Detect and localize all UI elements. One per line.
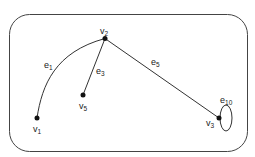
- edge-e5: [105, 39, 219, 119]
- label-v3: v3: [206, 118, 215, 129]
- label-e10: e10: [220, 95, 233, 106]
- edge-e3: [83, 39, 105, 96]
- vertex-v3: [217, 116, 222, 121]
- label-e3: e3: [96, 66, 105, 77]
- edge-e1: [37, 39, 105, 119]
- boundary-frame: [10, 15, 248, 152]
- label-e5: e5: [151, 57, 160, 68]
- label-e1: e1: [44, 60, 53, 71]
- graph-diagram: v2 v1 v5 v3 e1 e3 e5 e10: [0, 0, 255, 157]
- vertex-v1: [35, 116, 40, 121]
- edge-e10-loop: [220, 105, 232, 131]
- label-v2: v2: [100, 26, 109, 37]
- vertex-v5: [81, 93, 86, 98]
- label-v5: v5: [79, 101, 88, 112]
- label-v1: v1: [33, 124, 42, 135]
